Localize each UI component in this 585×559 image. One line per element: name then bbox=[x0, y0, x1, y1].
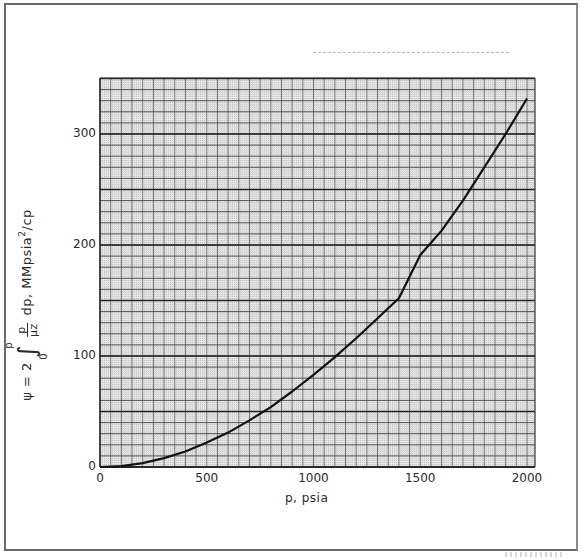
fraction: pμz bbox=[16, 323, 39, 337]
x-tick-label: 0 bbox=[75, 471, 125, 485]
y-tick-label: 100 bbox=[66, 348, 96, 362]
y-label-suffix: dp, MMpsia bbox=[19, 237, 34, 316]
integral-lower-bound: 0 bbox=[38, 353, 49, 360]
y-label-unit-tail: /cp bbox=[19, 209, 34, 230]
y-label-exponent: 2 bbox=[17, 231, 27, 237]
x-axis-label: p, psia bbox=[285, 491, 328, 505]
y-tick-label: 300 bbox=[66, 126, 96, 140]
x-tick-label: 1500 bbox=[395, 471, 445, 485]
y-tick-label: 200 bbox=[66, 237, 96, 251]
scan-artifact-footer bbox=[505, 552, 565, 557]
grid-background bbox=[100, 78, 535, 467]
integral-symbol: ∫p0 bbox=[13, 345, 41, 358]
x-tick-label: 500 bbox=[182, 471, 232, 485]
integral-upper-bound: p bbox=[3, 342, 14, 349]
y-label-prefix: ψ = 2 bbox=[19, 362, 34, 401]
y-axis-label: ψ = 2 ∫p0 pμz dp, MMpsia2/cp bbox=[13, 209, 41, 401]
x-tick-label: 2000 bbox=[502, 471, 552, 485]
fraction-denominator: μz bbox=[27, 323, 40, 337]
x-tick-label: 1000 bbox=[289, 471, 339, 485]
